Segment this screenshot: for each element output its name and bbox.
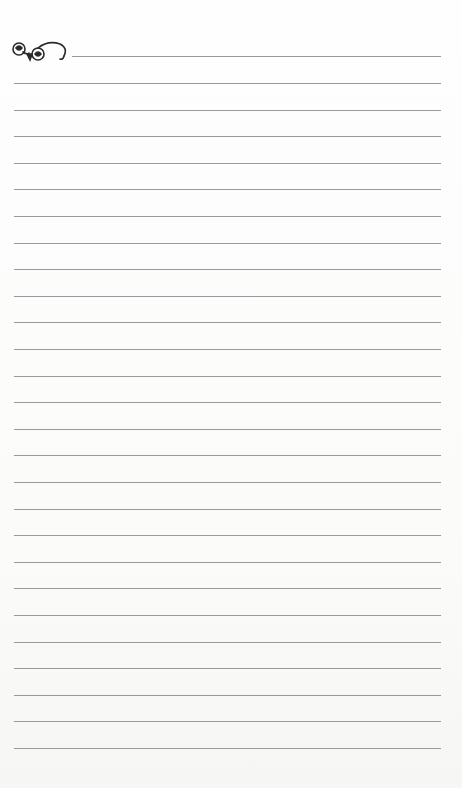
ruled-line: [14, 535, 441, 536]
ruled-line: [14, 216, 441, 217]
ruled-line: [14, 588, 441, 589]
ruled-line: [14, 721, 441, 722]
ruled-line: [14, 163, 441, 164]
ruled-line: [14, 376, 441, 377]
notepaper-page: [0, 0, 462, 788]
ruled-line: [14, 136, 441, 137]
ruled-line: [14, 189, 441, 190]
ruled-line: [14, 349, 441, 350]
ruled-line: [14, 562, 441, 563]
ruled-line: [14, 455, 441, 456]
ruled-line: [72, 56, 441, 57]
ruled-line: [14, 642, 441, 643]
ruled-line: [14, 748, 441, 749]
ruled-line: [14, 695, 441, 696]
ruled-line: [14, 83, 441, 84]
ruled-line: [14, 322, 441, 323]
ruled-line: [14, 429, 441, 430]
ruled-line: [14, 402, 441, 403]
ruled-line: [14, 482, 441, 483]
ruled-line: [14, 296, 441, 297]
ruled-line: [14, 668, 441, 669]
ruled-line: [14, 110, 441, 111]
ruled-line: [14, 269, 441, 270]
ruled-line: [14, 615, 441, 616]
ruled-line: [14, 509, 441, 510]
ruled-line: [14, 243, 441, 244]
flourish-ornament-icon: [11, 40, 71, 64]
